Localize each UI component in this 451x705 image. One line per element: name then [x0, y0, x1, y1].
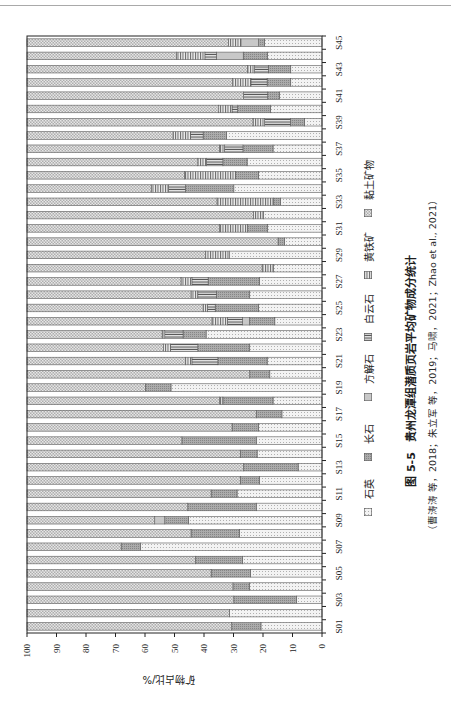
legend-label: 白云石: [361, 294, 376, 324]
figure-number: 图 5-5: [405, 452, 418, 487]
bar-segment: [240, 450, 257, 458]
bar-segment: [198, 344, 250, 352]
bar-segment: [170, 344, 197, 352]
legend-label: 黄铁矿: [361, 232, 376, 262]
bar-segment: [226, 132, 322, 140]
bar-segment: [232, 105, 238, 113]
legend-item-clay: 黏土矿物: [362, 160, 374, 217]
bar-segment: [264, 211, 322, 219]
bar-segment: [254, 211, 264, 219]
rotated-figure-page: S01S03S05S07S09S11S13S15S17S19S21S23S25S…: [0, 0, 451, 705]
bar-segment: [273, 397, 322, 405]
bar-S21: [27, 357, 322, 365]
bar-segment: [251, 79, 267, 87]
x-tick-label: S27: [334, 274, 344, 289]
bar-segment: [27, 251, 205, 259]
bar-segment: [256, 437, 322, 445]
bar-segment: [243, 52, 267, 60]
bar-S06: [27, 556, 322, 564]
bar-S11: [27, 490, 322, 498]
legend-label: 石英: [361, 479, 376, 499]
legend-item-quartz: 石英: [362, 479, 374, 516]
bar-S27: [27, 278, 322, 286]
bar-segment: [290, 118, 304, 126]
bar-segment: [211, 490, 237, 498]
bar-segment: [230, 251, 322, 259]
figure-citation: （曹涛涛 等，2018；朱立军 等，2019；马啸，2021；Zhao et a…: [425, 155, 439, 575]
bar-S20: [27, 371, 322, 379]
bar-segment: [243, 145, 273, 153]
bar-segment: [27, 317, 212, 325]
bar-segment: [27, 609, 229, 617]
x-tick-label: S11: [334, 487, 344, 501]
bar-segment: [249, 583, 322, 591]
bar-S17: [27, 410, 322, 418]
bar-segment: [27, 556, 195, 564]
bar-segment: [173, 132, 190, 140]
bar-S05: [27, 570, 322, 578]
bar-segment: [267, 79, 291, 87]
bar-S39: [27, 118, 322, 126]
bar-segment: [191, 291, 198, 299]
bar-S09: [27, 516, 322, 524]
bar-segment: [27, 437, 182, 445]
bar-segment: [27, 371, 250, 379]
bar-segment: [198, 158, 207, 166]
x-tick-label: S19: [334, 380, 344, 395]
bar-segment: [218, 357, 267, 365]
bar-S16: [27, 424, 322, 432]
bar-segment: [185, 357, 191, 365]
bar-segment: [280, 198, 322, 206]
bar-S08: [27, 530, 322, 538]
figure-title: 贵州龙潭组潜质页岩平均矿物成分统计: [405, 255, 418, 442]
bar-segment: [188, 503, 256, 511]
bar-S40: [27, 105, 322, 113]
x-tick-label: S43: [334, 62, 344, 77]
bar-segment: [285, 238, 322, 246]
x-tick-label: S37: [334, 141, 344, 156]
x-tick-label: S33: [334, 194, 344, 209]
bar-segment: [164, 344, 171, 352]
bar-S37: [27, 145, 322, 153]
bar-segment: [206, 331, 322, 339]
bar-S28: [27, 264, 322, 272]
bar-segment: [229, 609, 322, 617]
bar-segment: [298, 463, 322, 471]
bar-segment: [259, 39, 265, 47]
bar-segment: [282, 410, 322, 418]
bar-segment: [27, 344, 164, 352]
bar-segment: [250, 371, 270, 379]
bar-segment: [274, 264, 322, 272]
bar-segment: [244, 463, 299, 471]
bar-segment: [27, 264, 262, 272]
bar-segment: [27, 52, 177, 60]
bar-segment: [211, 570, 250, 578]
y-axis-title: 矿物占比/%: [119, 672, 219, 686]
bar-segment: [223, 397, 273, 405]
y-tick-label: 0: [317, 644, 327, 649]
bar-segment: [233, 583, 250, 591]
bar-segment: [27, 357, 185, 365]
bar-S25: [27, 304, 322, 312]
bar-segment: [27, 516, 155, 524]
bar-segment: [191, 530, 239, 538]
bar-segment: [121, 543, 140, 551]
bar-segment: [177, 52, 205, 60]
bar-segment: [27, 105, 219, 113]
bar-S35: [27, 172, 322, 180]
x-axis: S01S03S05S07S09S11S13S15S17S19S21S23S25S…: [322, 35, 344, 633]
bar-segment: [304, 118, 322, 126]
bar-segment: [235, 172, 258, 180]
dolomite-swatch-icon: [364, 333, 372, 341]
bar-segment: [216, 52, 243, 60]
bar-segment: [27, 145, 219, 153]
bar-segment: [140, 543, 322, 551]
y-tick-label: 90: [52, 644, 62, 654]
bar-segment: [228, 39, 240, 47]
x-tick-label: S39: [334, 115, 344, 130]
bar-S33: [27, 198, 322, 206]
bar-segment: [27, 92, 244, 100]
bar-S13: [27, 463, 322, 471]
bar-segment: [27, 172, 185, 180]
bar-segment: [185, 172, 236, 180]
